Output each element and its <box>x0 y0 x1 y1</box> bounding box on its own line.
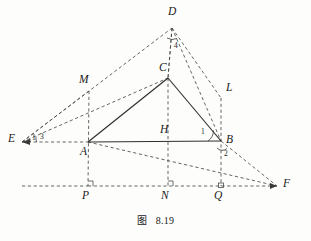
angle-3-arc-at-E <box>36 137 37 143</box>
caption-label: 图 <box>137 215 147 226</box>
angle-1-arc-at-B <box>208 131 214 142</box>
vertex-label-Q: Q <box>214 190 222 202</box>
arrow-head-F <box>270 183 277 189</box>
vertex-label-A: A <box>80 146 87 158</box>
angle-1-arc-at-E <box>30 139 31 142</box>
segment-D-B <box>172 28 221 141</box>
vertex-label-P: P <box>82 190 89 202</box>
segment-A-F <box>88 142 277 186</box>
angle-label-3-at-E: 3 <box>40 133 44 141</box>
right-angle-at-P <box>88 181 93 186</box>
segment-D-N-upper <box>168 28 172 78</box>
vertex-label-F: F <box>283 178 290 190</box>
vertex-label-L: L <box>226 82 232 94</box>
segment-C-B <box>168 78 221 141</box>
geometry-canvas <box>0 0 311 241</box>
segment-M-P <box>88 91 89 186</box>
segment-A-C <box>88 78 168 142</box>
angle-label-1-at-E: 1 <box>32 134 36 142</box>
angle-4-arc-at-D <box>167 38 177 39</box>
vertex-label-H: H <box>160 124 168 136</box>
vertex-label-M: M <box>79 74 89 86</box>
vertex-label-N: N <box>161 190 169 202</box>
segment-E-D <box>22 28 172 142</box>
dashed-construction-lines <box>22 28 277 186</box>
vertex-label-B: B <box>226 134 233 146</box>
vertex-label-D: D <box>168 6 176 18</box>
angle-arcs <box>30 38 227 150</box>
segment-A-B <box>88 141 221 142</box>
right-angle-markers <box>88 181 224 188</box>
vertex-label-C: C <box>159 62 167 74</box>
figure-caption: 图8.19 <box>0 212 311 227</box>
segment-D-L <box>172 28 221 98</box>
angle-label-1-at-B: 1 <box>201 128 205 136</box>
angle-label-4-at-D: 4 <box>174 42 178 50</box>
caption-number: 8.19 <box>156 215 174 226</box>
vertex-label-E: E <box>8 133 15 145</box>
geometry-figure: D C M L E H B A P N Q F 1 2 3 1 4 图8.19 <box>0 0 311 241</box>
angle-label-2-at-B: 2 <box>224 150 228 158</box>
arrow-head-E <box>22 139 30 145</box>
right-angle-at-N <box>168 181 173 186</box>
